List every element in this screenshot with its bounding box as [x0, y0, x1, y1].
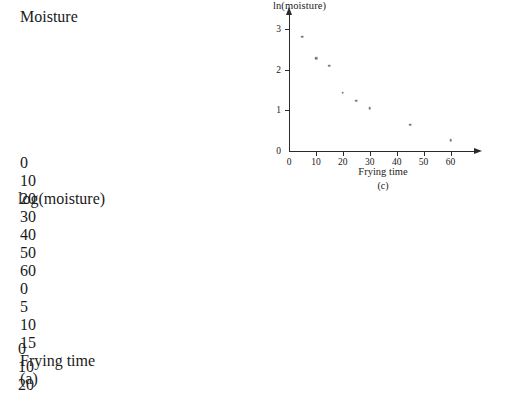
- x-axis-tick: [316, 152, 317, 156]
- data-point: [449, 139, 452, 142]
- x-axis-tick-label: 60: [446, 157, 456, 167]
- panel-c-y-axis-title: ln(moisture): [273, 0, 326, 11]
- y-axis-line: [18, 208, 250, 340]
- x-axis-tick-label: 20: [338, 157, 348, 167]
- data-point: [301, 36, 304, 39]
- x-axis-tick: [343, 152, 344, 156]
- panel-c-caption: (c): [377, 180, 388, 191]
- data-point: [409, 123, 412, 126]
- x-axis-tick: [397, 152, 398, 156]
- x-axis-tick: [451, 152, 452, 156]
- x-axis-tick-label: 10: [18, 358, 250, 376]
- data-point: [355, 99, 358, 102]
- x-axis-tick-label: 0: [287, 157, 292, 167]
- x-axis-tick-label: 10: [20, 172, 250, 190]
- panel-c-x-axis-label: Frying time: [358, 166, 407, 177]
- x-axis-tick-label: 10: [311, 157, 321, 167]
- y-axis-tick-label: 0: [263, 146, 281, 156]
- y-axis-tick: [285, 110, 289, 111]
- x-axis-tick-label: 50: [419, 157, 429, 167]
- y-axis-tick-label: 1: [263, 105, 281, 115]
- x-axis-tick-label: 20: [18, 376, 250, 393]
- x-axis-tick-label: 0: [20, 154, 250, 172]
- panel-b-y-axis-title: log(moisture): [18, 190, 250, 208]
- y-axis-tick-label: 2: [263, 65, 281, 75]
- chart-panel-b: log(moisture) 010203040506000.51.0 Fryin…: [18, 190, 250, 386]
- data-point: [368, 107, 371, 110]
- y-axis-tick: [285, 70, 289, 71]
- x-axis-tick: [424, 152, 425, 156]
- x-axis-tick: [370, 152, 371, 156]
- y-axis-arrow-icon: [286, 7, 292, 15]
- data-point: [315, 57, 318, 60]
- chart-panel-a: Moisture 0102030405060051015 Frying time…: [20, 8, 250, 190]
- panel-a-y-axis-title: Moisture: [20, 8, 250, 26]
- data-point: [328, 64, 331, 67]
- data-point: [342, 91, 345, 94]
- y-axis-line: [20, 26, 250, 154]
- y-axis-tick: [285, 29, 289, 30]
- y-axis-line: [289, 15, 290, 151]
- y-axis-tick-label: 3: [263, 24, 281, 34]
- x-axis-tick-label: 0: [18, 340, 250, 358]
- x-axis-arrow-icon: [474, 148, 482, 154]
- panel-b-plot-area: 010203040506000.51.0: [18, 208, 250, 393]
